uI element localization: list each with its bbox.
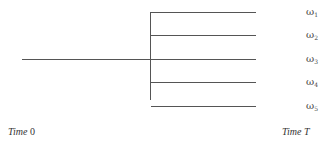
- branch-label-1: ω1: [306, 7, 318, 20]
- time-end-label: Time T: [282, 126, 310, 137]
- branch-label-4: ω4: [306, 77, 318, 90]
- branch-label-5: ω5: [306, 101, 318, 114]
- branch-label-3: ω3: [306, 54, 318, 67]
- time-start-label: Time 0: [8, 126, 35, 137]
- branch-lines: [151, 13, 256, 107]
- branch-label-2: ω2: [306, 30, 318, 43]
